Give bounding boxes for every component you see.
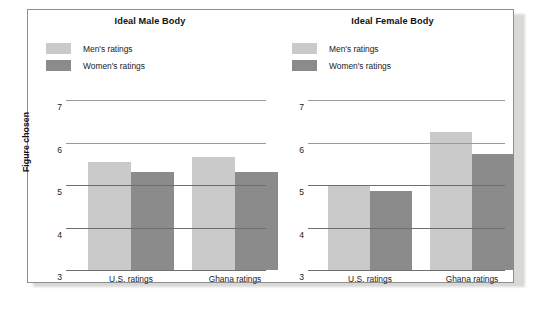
legend-item-womens-ratings-right: Women's ratings [292,57,391,74]
panel-ideal-female-body: Ideal Female Body Men's ratings Women's … [272,10,513,284]
legend-swatch-womens-icon [46,60,71,71]
legend-label-womens: Women's ratings [83,61,145,71]
bar-ghana-mens-left [192,157,235,271]
gridline-4-right: 4 [308,228,505,229]
legend-swatch-mens-icon-right [292,43,317,54]
bar-us-mens-left [88,162,131,270]
panel-title-right: Ideal Female Body [272,16,513,26]
gridline-5-right: 5 [308,185,505,186]
legend-label-womens-right: Women's ratings [329,61,391,71]
legend-swatch-mens-icon [46,43,71,54]
gridline-3-baseline-right: 3 [308,270,505,271]
plot-area-left: 7 6 U.S. ratings Ghana ratings 5 [66,100,266,270]
xlabel-us-ratings-left: U.S. ratings [88,274,174,284]
bar-us-womens-right [370,191,412,271]
bar-us-womens-left [131,172,174,270]
gridline-3-baseline: 3 [66,270,266,271]
xlabel-us-ratings-right: U.S. ratings [328,274,412,284]
legend-item-womens-ratings: Women's ratings [46,57,145,74]
bar-ghana-mens-right [430,132,472,270]
ytick-4: 4 [57,231,62,240]
ytick-5: 5 [57,188,62,197]
legend-label-mens: Men's ratings [83,44,133,54]
legend-left: Men's ratings Women's ratings [46,40,145,74]
bar-ghana-womens-right [472,154,514,270]
panel-title-left: Ideal Male Body [28,16,272,26]
ytick-4-right: 4 [299,231,304,240]
gridline-5: 5 [66,185,266,186]
legend-item-mens-ratings: Men's ratings [46,40,145,57]
plot-area-right: 7 U.S. ratings Ghana ratings 6 5 [308,100,505,270]
ytick-5-right: 5 [299,188,304,197]
ytick-6-right: 6 [299,146,304,155]
figure-frame: Figure chosen Ideal Male Body Men's rati… [27,9,514,283]
legend-swatch-womens-icon-right [292,60,317,71]
xlabel-ghana-ratings-left: Ghana ratings [192,274,278,284]
legend-right: Men's ratings Women's ratings [292,40,391,74]
figure-root: Figure chosen Ideal Male Body Men's rati… [0,0,537,312]
gridline-6-right: 6 [308,143,505,144]
ytick-6: 6 [57,146,62,155]
legend-item-mens-ratings-right: Men's ratings [292,40,391,57]
legend-label-mens-right: Men's ratings [329,44,379,54]
ytick-3: 3 [57,273,62,282]
panel-ideal-male-body: Ideal Male Body Men's ratings Women's ra… [28,10,272,284]
gridline-4: 4 [66,228,266,229]
ytick-3-right: 3 [299,273,304,282]
ytick-7: 7 [57,103,62,112]
ytick-7-right: 7 [299,103,304,112]
xlabel-ghana-ratings-right: Ghana ratings [430,274,514,284]
